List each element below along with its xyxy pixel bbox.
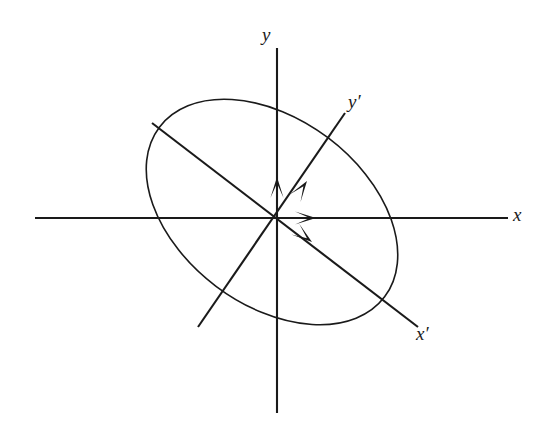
x-prime-axis-label: x′ [416,324,429,343]
ellipse-group [103,53,440,371]
y-axis-label: y [262,25,270,44]
x-prime-axis-group [152,123,418,327]
y-prime-axis-group [198,113,345,327]
x-axis-label: x [513,205,521,224]
y-prime-axis-label: y′ [348,92,361,111]
y-prime-axis-line [198,113,345,327]
coordinate-diagram-svg [0,0,540,442]
y-axis-group [270,48,283,413]
figure-canvas: y x y′ x′ [0,0,540,442]
x-prime-axis-line [152,123,418,327]
tilted-ellipse [103,53,440,371]
